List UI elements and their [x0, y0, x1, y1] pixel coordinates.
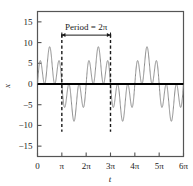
x-tick-label-2: 2π — [82, 161, 92, 171]
chart-figure-container: Period = 2π −15−10−5051015 0π2π3π4π5π6π … — [0, 0, 193, 186]
x-tick-label-5: 5π — [155, 161, 165, 171]
y-tick-label-6: 15 — [24, 17, 34, 27]
waveform-chart: Period = 2π −15−10−5051015 0π2π3π4π5π6π … — [0, 0, 193, 186]
y-axis-title: x — [2, 84, 12, 89]
x-tick-label-0: 0 — [35, 161, 40, 171]
x-tick-label-1: π — [60, 161, 65, 171]
y-tick-label-1: −10 — [18, 120, 33, 130]
y-tick-label-4: 5 — [28, 58, 33, 68]
y-tick-label-5: 10 — [24, 38, 34, 48]
x-tick-label-4: 4π — [130, 161, 140, 171]
x-tick-label-6: 6π — [179, 161, 189, 171]
y-tick-label-2: −5 — [23, 100, 33, 110]
period-annotation: Period = 2π — [62, 22, 111, 38]
y-tick-label-0: −15 — [18, 141, 33, 151]
period-annotation-label: Period = 2π — [65, 22, 108, 32]
x-tick-label-3: 3π — [106, 161, 116, 171]
y-tick-label-3: 0 — [28, 79, 33, 89]
